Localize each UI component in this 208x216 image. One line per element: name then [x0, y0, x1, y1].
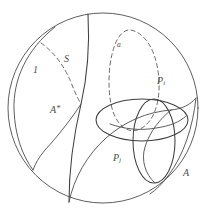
label-p-j-subscript: j	[119, 156, 121, 163]
right-upper-edge-arc	[171, 98, 196, 110]
label-a-star: A*	[50, 105, 61, 115]
label-p-j: Pj	[113, 153, 121, 164]
label-curve-a: a	[117, 41, 121, 49]
label-a-star-superscript: *	[56, 104, 60, 113]
label-annulus-a: A	[183, 168, 189, 178]
label-p-i-subscript: i	[163, 79, 165, 86]
label-p-i: Pi	[157, 76, 165, 87]
label-region-one: 1	[33, 65, 38, 75]
horizontal-oval	[96, 99, 188, 141]
label-surface-s: S	[64, 54, 69, 64]
figure-container: 1 S a A* Pi Pj A	[0, 0, 208, 216]
dashed-arc-S	[41, 43, 81, 104]
left-meridian-arc	[14, 27, 55, 170]
pi-descending-arc	[143, 110, 171, 183]
topology-diagram	[0, 0, 208, 216]
